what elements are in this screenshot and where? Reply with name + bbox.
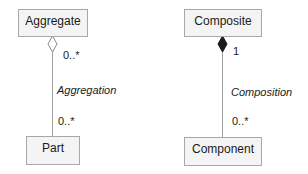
part-class-box[interactable]: Part: [26, 136, 80, 165]
part-multiplicity: 0..*: [58, 115, 75, 127]
aggregate-class-name: Aggregate: [25, 14, 80, 28]
component-multiplicity: 0..*: [232, 115, 249, 127]
aggregate-multiplicity: 0..*: [63, 49, 80, 61]
composite-class-box[interactable]: Composite: [184, 9, 262, 37]
part-class-name: Part: [42, 141, 64, 155]
hollow-diamond-icon: [48, 36, 57, 52]
component-class-name: Component: [192, 142, 254, 156]
aggregation-label: Aggregation: [57, 84, 116, 96]
composite-multiplicity: 1: [233, 45, 239, 57]
composition-label: Composition: [231, 86, 292, 98]
aggregate-class-box[interactable]: Aggregate: [18, 9, 88, 37]
filled-diamond-icon: [218, 36, 227, 52]
component-class-box[interactable]: Component: [184, 137, 262, 166]
composite-class-name: Composite: [194, 14, 251, 28]
